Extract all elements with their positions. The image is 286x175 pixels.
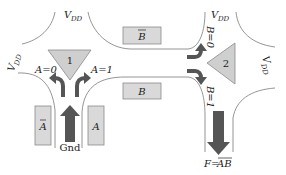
vdd-label-left: V DD: [5, 52, 23, 74]
gate-b-bar: B: [123, 27, 161, 44]
output-label: F= AB: [203, 158, 232, 169]
label-a-equals-1: A=1: [90, 64, 113, 75]
branch-arrow-a1-head-icon: [84, 72, 91, 84]
junction-2-triangle: 2: [207, 43, 235, 84]
svg-text:A: A: [91, 121, 99, 132]
ground-label: Gnd: [60, 142, 81, 153]
gate-a: A: [88, 106, 104, 145]
label-b-equals-1: B=1: [205, 85, 216, 108]
branch-arrow-b0-icon: [187, 50, 201, 57]
svg-text:DD: DD: [217, 15, 230, 23]
label-a-equals-0: A=0: [34, 64, 58, 75]
ground-arrow-up-icon: [60, 105, 80, 142]
svg-text:1: 1: [67, 55, 73, 66]
vdd-top-right-arc: [236, 12, 275, 47]
branch-arrow-b1-head-icon: [195, 77, 207, 85]
svg-text:B: B: [137, 31, 145, 42]
vdd-label-right: V DD: [257, 55, 275, 77]
diagram-canvas: V DD V DD V DD V DD B B A A 1 2 A: [0, 0, 286, 175]
branch-arrow-a1-icon: [77, 78, 85, 97]
svg-text:2: 2: [223, 58, 229, 69]
label-b-equals-0: B=0: [205, 25, 216, 49]
svg-text:DD: DD: [70, 15, 83, 23]
gate-b: B: [123, 83, 161, 99]
vdd-top-left-arc-left: [22, 12, 55, 44]
vdd-label-top-left: V DD: [64, 9, 83, 23]
svg-text:DD: DD: [13, 53, 24, 67]
branch-arrow-a0-icon: [55, 78, 63, 97]
svg-text:A: A: [38, 121, 46, 132]
vdd-label-top-right: V DD: [211, 9, 230, 23]
svg-text:DD: DD: [259, 62, 270, 76]
svg-text:AB: AB: [216, 158, 232, 169]
vdd-right-arc-lower: [233, 88, 275, 152]
svg-text:B: B: [137, 86, 145, 97]
gate-a-bar: A: [35, 106, 51, 145]
output-arrow-down-icon: [207, 111, 230, 155]
